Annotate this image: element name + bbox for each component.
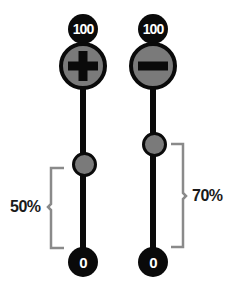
- left-bracket: [48, 168, 64, 248]
- range-brackets: [0, 0, 230, 288]
- right-bracket: [171, 144, 186, 247]
